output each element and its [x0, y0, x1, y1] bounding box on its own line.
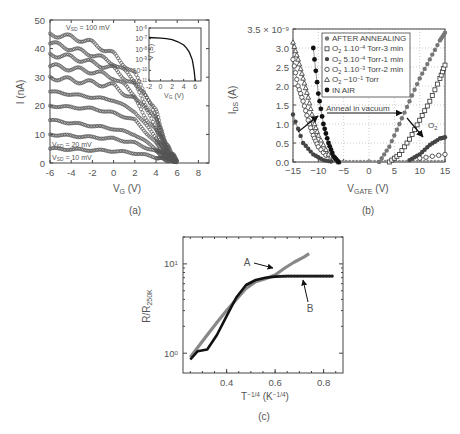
data-point [410, 93, 414, 97]
annotation-o2: O2 [428, 121, 437, 131]
y-tick-label: 0.0 [276, 157, 289, 168]
x-tick-label: -4 [67, 167, 75, 178]
data-point [405, 105, 409, 109]
data-point [423, 67, 427, 71]
legend-label: O2 5.10−4 Torr-1 min [332, 55, 403, 65]
data-point [317, 99, 322, 104]
data-point [336, 160, 341, 165]
data-point [298, 134, 302, 138]
data-point [403, 145, 407, 149]
panel-label: (b) [362, 205, 374, 216]
arrow-a [254, 263, 273, 268]
inset-x-tick-label: 2 [170, 83, 174, 90]
x-tick-label: 6 [175, 167, 180, 178]
y-scale-label: 3.5 × 10−9 [247, 24, 289, 35]
data-point [355, 160, 358, 163]
data-point [443, 152, 447, 156]
x-tick-label: 8 [196, 167, 201, 178]
data-point [305, 90, 310, 94]
x-axis-label: VG (V) [113, 183, 141, 195]
panel-c: 0.40.60.8100101T−1/4 (K−1/4)R/R250K(c)AB [141, 237, 343, 422]
data-point [412, 88, 416, 92]
data-point [424, 155, 428, 159]
data-point [321, 142, 326, 146]
data-point [322, 126, 327, 131]
annotation-anneal: Anneal in vacuum [326, 104, 390, 113]
inset-x-tick-label: 6 [193, 83, 197, 90]
data-point [308, 106, 313, 110]
data-point [302, 104, 306, 108]
data-point [293, 119, 297, 123]
data-point [300, 71, 305, 75]
y-tick-label: 101 [164, 258, 179, 269]
data-point [418, 156, 422, 160]
x-tick-label: 0.8 [317, 377, 330, 388]
x-tick-label: 2 [132, 167, 137, 178]
data-point [390, 139, 394, 143]
data-point [291, 40, 296, 44]
data-point [321, 122, 326, 127]
data-point [400, 149, 404, 153]
plot-frame [183, 237, 343, 373]
legend-entry: AFTER ANNEALING [325, 34, 406, 43]
data-point [291, 112, 295, 116]
data-point [324, 147, 329, 151]
data-point [307, 101, 312, 105]
y-tick-label: 100 [164, 348, 179, 359]
data-point [437, 153, 441, 157]
data-point [331, 275, 334, 278]
data-point [299, 275, 302, 278]
data-point [301, 99, 305, 103]
annotation-100mv: VSD = 100 mV [66, 24, 110, 32]
data-point [306, 95, 311, 99]
data-point [443, 63, 447, 67]
data-point [311, 275, 314, 278]
data-point [322, 275, 325, 278]
data-point [328, 275, 331, 278]
data-point [430, 154, 434, 158]
panel-label: (a) [129, 205, 141, 216]
data-point [418, 76, 422, 80]
data-point [423, 109, 427, 113]
data-point [435, 82, 439, 86]
data-point [373, 160, 376, 163]
inset-y-tick-label: 10-10 [133, 67, 148, 74]
data-point [295, 77, 299, 81]
inset-y-tick-label: 10-9 [135, 56, 147, 63]
data-point [282, 275, 285, 278]
x-tick-label: −5 [338, 165, 349, 176]
data-point [382, 152, 386, 156]
data-point [392, 133, 396, 137]
data-point [423, 160, 426, 163]
x-axis-label: T−1/4 (K−1/4) [241, 391, 289, 402]
y-tick-label: 10 [34, 129, 45, 140]
data-point [440, 160, 443, 163]
data-point [308, 275, 311, 278]
data-point [430, 94, 434, 98]
x-tick-label: 0.4 [220, 377, 233, 388]
legend-entry: O2 ~10−1 Torr [325, 75, 380, 85]
data-point [325, 36, 329, 40]
inset-x-tick-label: 0 [159, 83, 163, 90]
data-point [397, 122, 401, 126]
inset-y-tick-label: 10-7 [135, 35, 147, 42]
data-point [305, 275, 308, 278]
data-point [428, 99, 432, 103]
data-point [430, 52, 434, 56]
panel-a: -6-4-20246801020304050VG (V)I (nA)(a)VSD… [15, 15, 209, 217]
data-point [369, 160, 372, 163]
data-point [362, 160, 365, 163]
data-point [345, 160, 348, 163]
data-point [430, 160, 433, 163]
data-point [387, 145, 391, 149]
data-point [302, 81, 307, 85]
data-point [305, 113, 309, 117]
inset-y-tick-label: 10-8 [135, 46, 147, 53]
x-tick-label: -6 [46, 167, 54, 178]
y-tick-label: 0 [40, 158, 45, 169]
data-point [401, 160, 404, 163]
y-tick-label: 2.0 [276, 81, 289, 92]
x-tick-label: 4 [153, 167, 158, 178]
data-point [325, 67, 329, 71]
data-point [425, 62, 429, 66]
